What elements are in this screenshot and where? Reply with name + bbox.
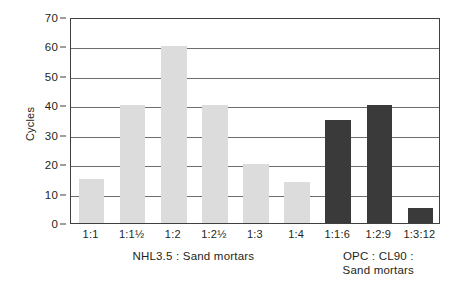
- bar: [325, 120, 350, 223]
- x-tick-label: 1:1:6: [324, 228, 349, 240]
- x-tick-label: 1:4: [288, 228, 304, 240]
- y-tick-label: 40: [45, 100, 58, 112]
- x-axis-tick-labels: 1:11:1½1:21:2½1:31:41:1:61:2:91:3:12: [70, 228, 440, 244]
- y-tick-mark: [60, 165, 66, 166]
- y-tick-mark: [60, 224, 66, 225]
- bar: [284, 182, 309, 223]
- y-tick-label: 70: [45, 12, 58, 24]
- x-tick-label: 1:3:12: [404, 228, 436, 240]
- x-tick-label: 1:2:9: [366, 228, 391, 240]
- y-axis-tick-labels: 010203040506070: [0, 18, 66, 224]
- y-tick-mark: [60, 76, 66, 77]
- x-tick-label: 1:3: [247, 228, 263, 240]
- x-tick-label: 1:2½: [201, 228, 226, 240]
- x-tick-label: 1:1: [83, 228, 99, 240]
- bar-series: [71, 19, 439, 223]
- y-tick-label: 60: [45, 41, 58, 53]
- y-tick-mark: [60, 194, 66, 195]
- y-tick-mark: [60, 47, 66, 48]
- bar: [243, 164, 268, 223]
- bar: [161, 46, 186, 223]
- bar: [120, 105, 145, 223]
- group-label-opc: OPC : CL90 : Sand mortars: [343, 249, 414, 277]
- bar: [202, 105, 227, 223]
- y-tick-label: 50: [45, 71, 58, 83]
- y-tick-label: 20: [45, 159, 58, 171]
- bar: [367, 105, 392, 223]
- y-tick-label: 0: [51, 218, 58, 230]
- y-tick-label: 30: [45, 130, 58, 142]
- x-tick-label: 1:1½: [119, 228, 144, 240]
- y-tick-mark: [60, 135, 66, 136]
- plot-area: [70, 18, 440, 224]
- bar-chart: Cycles 010203040506070 1:11:1½1:21:2½1:3…: [0, 0, 465, 289]
- y-tick-mark: [60, 106, 66, 107]
- group-label-nhl: NHL3.5 : Sand mortars: [132, 249, 254, 263]
- bar: [408, 208, 433, 223]
- y-tick-mark: [60, 18, 66, 19]
- bar: [79, 179, 104, 223]
- x-tick-label: 1:2: [165, 228, 181, 240]
- y-tick-label: 10: [45, 189, 58, 201]
